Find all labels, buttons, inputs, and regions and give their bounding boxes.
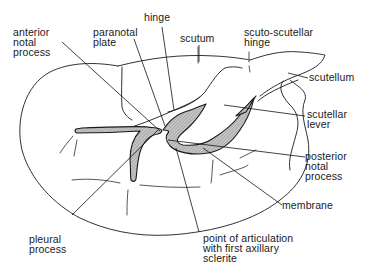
anterior-notal-process-sclerite [75, 127, 162, 182]
central-articulation-sclerite [163, 98, 254, 154]
label-anterior-notal-process: anterior notal process [13, 27, 50, 57]
leader-paranotal-plate [134, 39, 165, 126]
label-point-of-articulation: point of articulation with first axillar… [203, 233, 293, 263]
label-paranotal-plate: paranotal plate [93, 27, 138, 47]
scutellum-inner-outline [168, 67, 298, 112]
leader-hinge [162, 27, 174, 110]
leader-scutellar-lever [224, 105, 305, 116]
label-scutellum: scutellum [309, 72, 354, 82]
label-posterior-notal-process: posterior notal process [305, 151, 347, 181]
label-scutellar-lever: scutellar lever [307, 109, 347, 129]
leader-point-of-articulation [176, 148, 199, 232]
leader-scutellum [288, 73, 308, 78]
label-membrane: membrane [282, 200, 333, 210]
scutum-top-edge [118, 52, 325, 96]
leader-pleural-process [72, 130, 158, 215]
scutum-lateral-line [122, 67, 132, 120]
ridge-lines [60, 136, 256, 215]
scutellum-side-line [281, 81, 298, 170]
leader-anterior-notal-process [62, 42, 160, 131]
notum-outline [20, 64, 309, 236]
label-scutum: scutum [180, 33, 214, 43]
label-scuto-scutellar-hinge: scuto-scutellar hinge [244, 27, 313, 47]
label-hinge: hinge [144, 12, 170, 22]
label-pleural-process: pleural process [29, 234, 66, 254]
